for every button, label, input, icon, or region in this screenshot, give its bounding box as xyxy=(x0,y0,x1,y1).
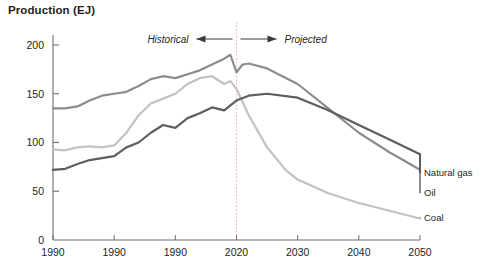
y-axis-tick-label: 150 xyxy=(26,88,44,100)
x-axis-tick-label: 2030 xyxy=(286,246,310,258)
projected-label: Projected xyxy=(285,34,328,45)
x-axis-tick-label: 2040 xyxy=(347,246,371,258)
series-label-coal: Coal xyxy=(424,212,444,223)
series-label-natural-gas: Natural gas xyxy=(424,167,473,178)
y-axis-tick-label: 100 xyxy=(26,136,44,148)
annotation-layer: HistoricalProjected xyxy=(147,34,327,45)
chart-canvas: 0501001502001990199019902020203020402050… xyxy=(0,0,491,265)
y-axis-tick-label: 0 xyxy=(38,234,44,246)
production-line-chart: Production (EJ) 050100150200199019901990… xyxy=(0,0,491,265)
x-axis-tick-label: 1990 xyxy=(102,246,126,258)
series-layer xyxy=(53,55,420,219)
historical-arrow-head xyxy=(197,35,206,42)
series-label-oil: Oil xyxy=(424,187,436,198)
series-line-coal xyxy=(53,76,420,218)
projected-arrow-head xyxy=(268,35,277,42)
y-axis-tick-label: 200 xyxy=(26,39,44,51)
x-axis-tick-label: 2020 xyxy=(225,246,249,258)
x-axis-tick-label: 1990 xyxy=(41,246,65,258)
x-axis-tick-label: 1990 xyxy=(164,246,188,258)
historical-label: Historical xyxy=(147,34,189,45)
x-axis-tick-label: 2050 xyxy=(408,246,432,258)
y-axis-tick-label: 50 xyxy=(32,185,44,197)
